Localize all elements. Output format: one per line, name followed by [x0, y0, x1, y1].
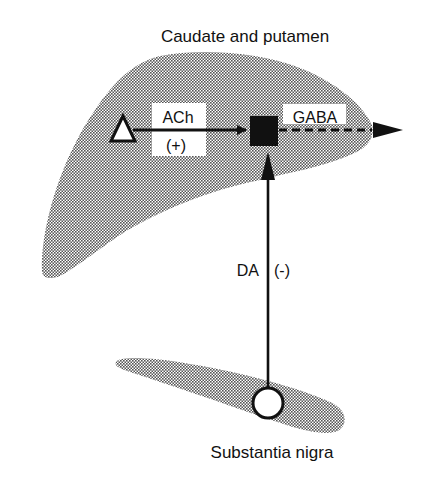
circle-neuron-icon: [253, 388, 283, 418]
ach-effect-label: (+): [166, 137, 186, 154]
substantia-nigra-region: [116, 358, 345, 433]
basal-ganglia-diagram: Caudate and putamen ACh (+) GABA DA (-) …: [0, 0, 426, 479]
square-neuron-icon: [250, 116, 278, 146]
gaba-arrowhead-icon: [373, 122, 403, 138]
da-effect-label: (-): [274, 262, 290, 279]
da-label: DA: [237, 262, 260, 279]
ach-label: ACh: [162, 109, 193, 126]
caudate-putamen-label: Caudate and putamen: [161, 27, 329, 46]
gaba-label: GABA: [293, 109, 338, 126]
substantia-nigra-label: Substantia nigra: [211, 443, 334, 462]
caudate-putamen-region: [42, 52, 373, 278]
